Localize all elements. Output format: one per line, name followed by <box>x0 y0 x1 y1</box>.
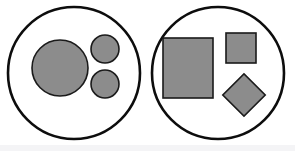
left-set-group <box>8 7 140 139</box>
large-gray-square[interactable] <box>163 38 213 98</box>
bottom-edge-strip <box>0 145 295 151</box>
diagram-canvas <box>0 0 295 151</box>
small-gray-circle-top[interactable] <box>91 35 119 63</box>
shapes-diagram <box>0 0 295 151</box>
large-gray-circle[interactable] <box>32 40 88 96</box>
small-gray-square[interactable] <box>226 33 256 63</box>
right-set-group <box>152 7 284 139</box>
small-gray-circle-bottom[interactable] <box>91 70 119 98</box>
